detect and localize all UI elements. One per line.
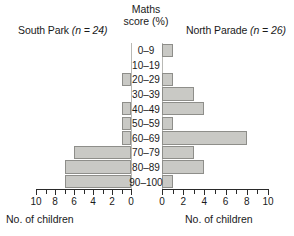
axis-tick-label: 10 <box>257 196 279 207</box>
axis-tick <box>183 190 184 195</box>
right-panel-title: North Parade (n = 26) <box>186 24 286 36</box>
chart-row: 30–39 <box>0 87 294 102</box>
axis-tick <box>46 190 47 194</box>
axis-tick <box>131 190 132 195</box>
axis-tick-label: 0 <box>120 196 142 207</box>
chart-row: 90–100 <box>0 174 294 189</box>
left-axis-caption: No. of children <box>6 213 74 225</box>
axis-tick-label: 6 <box>215 196 237 207</box>
left-panel-title: South Park (n = 24) <box>18 24 107 36</box>
axis-tick <box>93 190 94 195</box>
chart-row: 10–19 <box>0 58 294 73</box>
axis-tick-label: 8 <box>44 196 66 207</box>
axis-tick <box>257 190 258 194</box>
category-label: 50–59 <box>115 118 177 129</box>
left-panel-school: South Park <box>18 24 69 36</box>
chart-row: 20–29 <box>0 72 294 87</box>
center-header-line-1: Maths <box>115 4 177 16</box>
center-header-line-2: score (%) <box>115 16 177 28</box>
category-label: 20–29 <box>115 74 177 85</box>
axis-tick <box>36 190 37 195</box>
axis-tick <box>55 190 56 195</box>
chart-row: 70–79 <box>0 145 294 160</box>
axis-tick-label: 4 <box>193 196 215 207</box>
right-axis-caption: No. of children <box>185 213 253 225</box>
axis-tick-label: 2 <box>172 196 194 207</box>
axis-tick-label: 8 <box>236 196 258 207</box>
category-label: 90–100 <box>115 176 177 187</box>
axis-tick-label: 2 <box>101 196 123 207</box>
axis-tick <box>236 190 237 194</box>
axis-tick <box>194 190 195 194</box>
axis-tick <box>74 190 75 195</box>
left-panel-n: (n = 24) <box>72 24 108 36</box>
chart-row: 0–9 <box>0 43 294 58</box>
chart-row: 50–59 <box>0 116 294 131</box>
population-pyramid-chart: Maths score (%) South Park (n = 24) Nort… <box>0 0 294 236</box>
category-label: 0–9 <box>115 45 177 56</box>
center-axis-header: Maths score (%) <box>115 4 177 27</box>
axis-tick <box>84 190 85 194</box>
axis-tick <box>173 190 174 194</box>
category-label: 80–89 <box>115 162 177 173</box>
axis-tick <box>162 190 163 195</box>
chart-row: 40–49 <box>0 101 294 116</box>
category-label: 60–69 <box>115 132 177 143</box>
axis-tick-label: 4 <box>82 196 104 207</box>
axis-tick <box>65 190 66 194</box>
chart-row: 80–89 <box>0 160 294 175</box>
axis-tick-label: 0 <box>151 196 173 207</box>
axis-tick-label: 6 <box>63 196 85 207</box>
chart-row: 60–69 <box>0 131 294 146</box>
category-label: 70–79 <box>115 147 177 158</box>
axis-tick <box>122 190 123 194</box>
category-label: 40–49 <box>115 103 177 114</box>
axis-tick <box>204 190 205 195</box>
category-label: 30–39 <box>115 89 177 100</box>
chart-rows: 0–910–1920–2930–3940–4950–5960–6970–7980… <box>0 43 294 189</box>
category-label: 10–19 <box>115 59 177 70</box>
axis-tick <box>103 190 104 194</box>
axis-tick <box>247 190 248 195</box>
axis-tick <box>112 190 113 195</box>
right-panel-n: (n = 26) <box>250 24 286 36</box>
right-panel-school: North Parade <box>186 24 247 36</box>
axis-tick-label: 10 <box>25 196 47 207</box>
axis-tick <box>226 190 227 195</box>
axis-tick <box>268 190 269 195</box>
axis-tick <box>215 190 216 194</box>
